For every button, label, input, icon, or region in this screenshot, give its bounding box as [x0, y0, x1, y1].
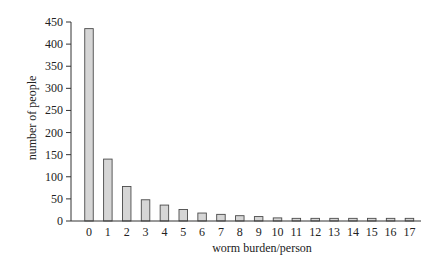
x-tick-label: 6 — [199, 225, 205, 239]
x-tick-label: 8 — [237, 225, 243, 239]
y-tick-label: 50 — [51, 192, 63, 206]
x-tick-label: 13 — [328, 225, 340, 239]
x-tick-label: 5 — [180, 225, 186, 239]
y-tick-label: 0 — [57, 214, 63, 228]
x-tick-label: 1 — [105, 225, 111, 239]
y-axis-label: number of people — [25, 76, 39, 161]
y-tick-label: 450 — [45, 15, 63, 29]
bar-2 — [122, 187, 131, 221]
x-tick-label: 7 — [218, 225, 224, 239]
bar-4 — [160, 205, 169, 221]
x-tick-label: 0 — [86, 225, 92, 239]
y-tick-label: 300 — [45, 81, 63, 95]
bar-0 — [85, 29, 94, 221]
x-axis-label: worm burden/person — [212, 241, 312, 255]
x-tick-label: 9 — [256, 225, 262, 239]
bars — [85, 29, 414, 221]
x-tick-label: 3 — [143, 225, 149, 239]
bar-chart: 050100150200250300350400450 012345678910… — [0, 0, 445, 270]
x-tick-label: 15 — [366, 225, 378, 239]
y-axis-ticks: 050100150200250300350400450 — [45, 15, 71, 228]
y-tick-label: 350 — [45, 59, 63, 73]
x-tick-label: 14 — [347, 225, 359, 239]
x-tick-label: 4 — [161, 225, 167, 239]
y-tick-label: 200 — [45, 126, 63, 140]
x-tick-label: 2 — [124, 225, 130, 239]
x-tick-label: 12 — [309, 225, 321, 239]
bar-5 — [179, 210, 188, 221]
x-tick-label: 16 — [385, 225, 397, 239]
x-tick-label: 17 — [403, 225, 415, 239]
y-tick-label: 150 — [45, 148, 63, 162]
bar-6 — [198, 213, 207, 221]
x-axis-ticks: 01234567891011121314151617 — [86, 225, 415, 239]
y-tick-label: 400 — [45, 37, 63, 51]
bar-3 — [141, 200, 150, 221]
x-tick-label: 11 — [291, 225, 303, 239]
bar-9 — [254, 217, 263, 221]
bar-8 — [236, 216, 245, 221]
y-tick-label: 100 — [45, 170, 63, 184]
bar-1 — [104, 159, 113, 221]
y-tick-label: 250 — [45, 103, 63, 117]
bar-7 — [217, 214, 226, 221]
x-tick-label: 10 — [272, 225, 284, 239]
